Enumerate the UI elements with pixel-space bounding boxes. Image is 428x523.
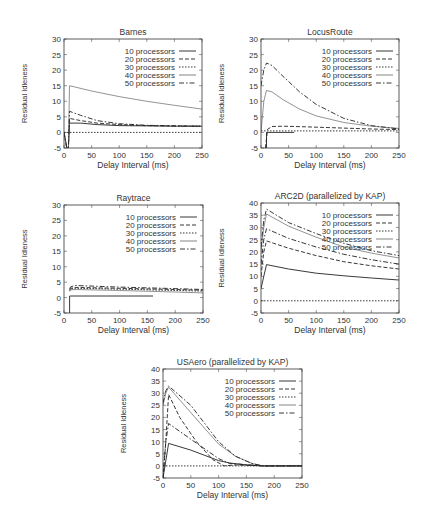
x-axis-label: Delay Interval (ms) xyxy=(294,160,365,170)
x-tick-label: 50 xyxy=(87,316,96,325)
y-tick-label: 20 xyxy=(249,248,258,257)
x-tick-label: 100 xyxy=(113,151,127,160)
x-tick-label: 250 xyxy=(195,151,209,160)
y-tick-label: -5 xyxy=(153,474,161,483)
series-line xyxy=(267,132,295,148)
y-tick-label: 5 xyxy=(57,113,62,122)
legend: 10 processors20 processors30 processors4… xyxy=(322,211,393,252)
x-tick-label: 50 xyxy=(284,316,293,325)
x-tick-label: 200 xyxy=(268,481,282,490)
y-tick-label: -5 xyxy=(54,144,62,153)
y-tick-label: 30 xyxy=(52,201,61,210)
y-axis-label: Residual Idleness xyxy=(217,64,226,123)
x-tick-label: 100 xyxy=(113,316,127,325)
y-tick-label: 0 xyxy=(254,297,259,306)
charts-canvas: Barnes-5051015202530050100150200250Delay… xyxy=(0,0,428,523)
chart-title: ARC2D (parallelized by KAP) xyxy=(275,191,386,201)
x-tick-label: 200 xyxy=(365,151,379,160)
chart-barnes: Barnes-5051015202530050100150200250Delay… xyxy=(20,27,209,170)
y-tick-label: 15 xyxy=(249,82,258,91)
y-tick-label: 10 xyxy=(151,438,160,447)
chart-title: USAero (parallelized by KAP) xyxy=(177,357,289,367)
chart-usaero: USAero (parallelized by KAP)-50510152025… xyxy=(119,357,309,500)
legend: 10 processors20 processors30 processors4… xyxy=(125,47,196,88)
y-tick-label: 15 xyxy=(52,247,61,256)
y-tick-label: -5 xyxy=(54,309,62,318)
x-axis-label: Delay Interval (ms) xyxy=(98,325,169,335)
y-tick-label: 20 xyxy=(151,413,160,422)
y-tick-label: 35 xyxy=(249,211,258,220)
legend-label: 50 processors xyxy=(322,243,372,252)
x-tick-label: 250 xyxy=(295,481,309,490)
y-tick-label: 0 xyxy=(254,128,259,137)
chart-title: Raytrace xyxy=(116,193,150,203)
y-tick-label: 35 xyxy=(151,377,160,386)
y-tick-label: 25 xyxy=(249,51,258,60)
y-axis-label: Residual Idleness xyxy=(217,228,226,287)
x-tick-label: 150 xyxy=(337,151,351,160)
series-line xyxy=(163,443,302,478)
chart-locusroute: LocusRoute-5051015202530050100150200250D… xyxy=(217,27,406,170)
y-tick-label: 10 xyxy=(249,97,258,106)
series-line xyxy=(261,265,399,289)
y-tick-label: 25 xyxy=(52,216,61,225)
x-tick-label: 150 xyxy=(337,316,351,325)
chart-title: Barnes xyxy=(120,27,147,37)
x-tick-label: 250 xyxy=(196,316,210,325)
y-tick-label: 25 xyxy=(151,401,160,410)
y-tick-label: 25 xyxy=(249,236,258,245)
x-tick-label: 250 xyxy=(392,316,406,325)
y-tick-label: 40 xyxy=(151,365,160,374)
x-tick-label: 50 xyxy=(284,151,293,160)
y-tick-label: 10 xyxy=(249,272,258,281)
x-tick-label: 0 xyxy=(259,151,264,160)
chart-title: LocusRoute xyxy=(307,27,353,37)
x-axis-label: Delay Interval (ms) xyxy=(197,490,268,500)
y-tick-label: 0 xyxy=(156,462,161,471)
y-tick-label: 15 xyxy=(151,426,160,435)
y-tick-label: 40 xyxy=(249,199,258,208)
y-tick-label: 0 xyxy=(57,294,62,303)
x-tick-label: 150 xyxy=(141,316,155,325)
series-line xyxy=(163,424,302,479)
x-axis-label: Delay Interval (ms) xyxy=(97,160,168,170)
y-axis-label: Residual Idleness xyxy=(20,64,29,123)
x-tick-label: 0 xyxy=(259,316,264,325)
chart-arc2d: ARC2D (parallelized by KAP)-505101520253… xyxy=(217,191,406,335)
x-tick-label: 0 xyxy=(62,316,67,325)
x-tick-label: 200 xyxy=(168,151,182,160)
y-tick-label: 5 xyxy=(254,113,259,122)
x-tick-label: 100 xyxy=(212,481,226,490)
legend-label: 50 processors xyxy=(225,409,275,418)
y-tick-label: 15 xyxy=(249,260,258,269)
x-tick-label: 100 xyxy=(310,316,324,325)
y-axis-label: Residual Idleness xyxy=(119,394,128,453)
x-tick-label: 250 xyxy=(392,151,406,160)
legend: 10 processors20 processors30 processors4… xyxy=(126,213,197,254)
x-tick-label: 50 xyxy=(186,481,195,490)
series-line xyxy=(64,111,202,148)
y-tick-label: 0 xyxy=(57,128,62,137)
y-tick-label: 30 xyxy=(249,223,258,232)
series-line xyxy=(64,123,202,148)
y-tick-label: 5 xyxy=(156,450,161,459)
x-tick-label: 0 xyxy=(161,481,166,490)
x-tick-label: 150 xyxy=(140,151,154,160)
chart-raytrace: Raytrace-5051015202530050100150200250Del… xyxy=(20,193,210,335)
y-tick-label: 5 xyxy=(254,285,259,294)
x-tick-label: 200 xyxy=(169,316,183,325)
y-tick-label: 30 xyxy=(151,389,160,398)
x-tick-label: 100 xyxy=(310,151,324,160)
y-tick-label: 20 xyxy=(52,66,61,75)
x-tick-label: 200 xyxy=(365,316,379,325)
y-tick-label: 30 xyxy=(249,35,258,44)
y-tick-label: 25 xyxy=(52,51,61,60)
series-line xyxy=(265,126,399,148)
y-tick-label: 10 xyxy=(52,97,61,106)
x-tick-label: 0 xyxy=(62,151,67,160)
series-line xyxy=(70,296,153,313)
legend-label: 50 processors xyxy=(126,245,176,254)
y-tick-label: 20 xyxy=(52,232,61,241)
plot-area xyxy=(64,86,202,148)
y-tick-label: 20 xyxy=(249,66,258,75)
